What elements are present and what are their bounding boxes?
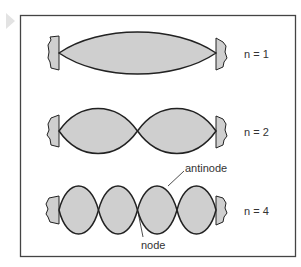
harmonic-label-n2: n = 2 <box>244 126 269 138</box>
harmonic-label-n4: n = 4 <box>244 205 269 217</box>
antinode-label: antinode <box>185 162 227 174</box>
harmonic-label-n1: n = 1 <box>244 48 269 60</box>
standing-wave-diagram: n = 1 n = 2 n = 4 antinode node <box>0 0 301 267</box>
page-marker-icon <box>6 13 15 29</box>
node-label: node <box>141 239 165 251</box>
